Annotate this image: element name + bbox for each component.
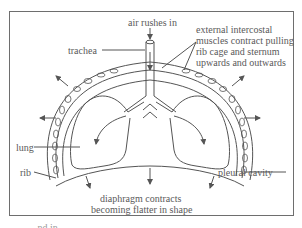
pleural-membrane — [63, 80, 238, 176]
label-pleural: pleural cavity — [218, 167, 273, 178]
label-rib: rib — [20, 167, 31, 178]
label-lung: lung — [16, 142, 34, 153]
label-intercostal-4: upwards and outwards — [196, 57, 286, 68]
rib-cells-icon — [53, 69, 248, 174]
label-intercostal-2: muscles contract pulling — [196, 35, 294, 46]
label-diaphragm-2: becoming flatter in shape — [91, 204, 192, 215]
label-air-in: air rushes in — [128, 17, 177, 28]
diagram-stage: air rushes in trachea external intercost… — [0, 0, 302, 228]
caption-cutoff: ...nd in... — [30, 222, 65, 228]
label-intercostal-1: external intercostal — [196, 24, 272, 35]
ribcage-inner — [56, 70, 244, 178]
label-intercostal-3: rib cage and sternum — [196, 46, 280, 57]
label-trachea: trachea — [68, 45, 97, 56]
label-diaphragm-1: diaphragm contracts — [100, 193, 181, 204]
